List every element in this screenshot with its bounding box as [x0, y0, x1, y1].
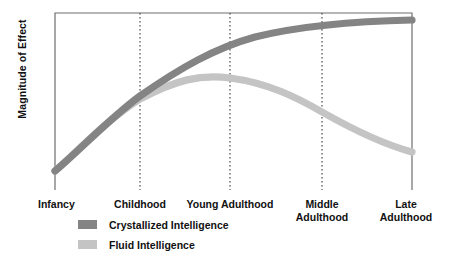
legend-item-crystallized-intelligence[interactable]: Crystallized Intelligence [78, 216, 229, 233]
axis-frame [55, 13, 412, 190]
legend-item-fluid-intelligence[interactable]: Fluid Intelligence [78, 236, 229, 253]
chart-legend: Crystallized Intelligence Fluid Intellig… [78, 216, 229, 256]
y-axis-label: Magnitude of Effect [16, 9, 28, 129]
legend-swatch-fluid-intelligence [78, 240, 97, 249]
x-tick-middle-adulthood-line2: Adulthood [272, 211, 372, 224]
legend-label-crystallized-intelligence: Crystallized Intelligence [109, 219, 229, 231]
x-tick-middle-adulthood-line1: Middle [272, 198, 372, 211]
x-tick-late-adulthood: Late Adulthood [362, 198, 450, 223]
x-tick-middle-adulthood: Middle Adulthood [272, 198, 372, 223]
x-tick-late-adulthood-line2: Adulthood [362, 211, 450, 224]
x-tick-late-adulthood-line1: Late [362, 198, 450, 211]
legend-label-fluid-intelligence: Fluid Intelligence [109, 239, 195, 251]
legend-swatch-crystallized-intelligence [78, 220, 97, 229]
series-line-crystallized-intelligence [55, 20, 412, 171]
chart-figure: Magnitude of Effect Infancy Childhood Yo… [0, 0, 450, 256]
